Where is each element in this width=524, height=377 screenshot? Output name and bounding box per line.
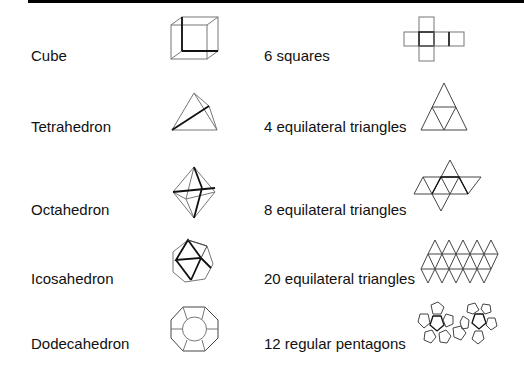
faces-label-dodecahedron: 12 regular pentagons — [264, 335, 406, 353]
dodecahedron-icon — [170, 305, 220, 353]
dodecahedron-net-icon — [411, 302, 505, 352]
faces-label-icosahedron: 20 equilateral triangles — [264, 270, 415, 288]
faces-label-tetrahedron: 4 equilateral triangles — [264, 118, 407, 136]
icosahedron-net-icon — [420, 238, 502, 288]
cube-icon — [170, 16, 220, 62]
solid-label-icosahedron: Icosahedron — [31, 270, 114, 288]
octahedron-icon — [172, 166, 216, 220]
top-border — [28, 0, 524, 3]
solid-label-dodecahedron: Dodecahedron — [31, 335, 129, 353]
cube-net-icon — [404, 16, 466, 62]
tetrahedron-icon — [171, 92, 219, 134]
octahedron-net-icon — [411, 153, 485, 217]
solid-label-cube: Cube — [31, 47, 67, 65]
faces-label-cube: 6 squares — [264, 47, 330, 65]
icosahedron-icon — [171, 238, 215, 284]
solid-label-octahedron: Octahedron — [31, 201, 109, 219]
tetrahedron-net-icon — [420, 82, 470, 132]
faces-label-octahedron: 8 equilateral triangles — [264, 201, 407, 219]
solid-label-tetrahedron: Tetrahedron — [31, 118, 111, 136]
